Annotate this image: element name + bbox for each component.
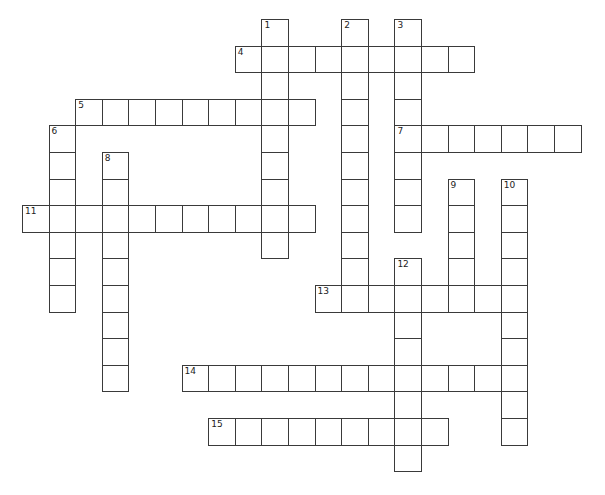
- crossword-cell[interactable]: [75, 205, 103, 233]
- crossword-cell[interactable]: [315, 418, 343, 446]
- crossword-cell[interactable]: [261, 46, 289, 74]
- crossword-cell[interactable]: [501, 258, 529, 286]
- crossword-cell[interactable]: [261, 232, 289, 260]
- crossword-cell[interactable]: [341, 99, 369, 127]
- crossword-cell[interactable]: [261, 72, 289, 100]
- crossword-cell[interactable]: [102, 285, 130, 313]
- crossword-cell[interactable]: [208, 99, 236, 127]
- crossword-cell[interactable]: [155, 205, 183, 233]
- crossword-cell[interactable]: [341, 258, 369, 286]
- crossword-cell[interactable]: [341, 152, 369, 180]
- crossword-cell[interactable]: [288, 99, 316, 127]
- crossword-cell[interactable]: [554, 125, 582, 153]
- crossword-cell[interactable]: [394, 179, 422, 207]
- crossword-cell[interactable]: [448, 365, 476, 393]
- crossword-cell[interactable]: [208, 205, 236, 233]
- crossword-cell[interactable]: [341, 232, 369, 260]
- crossword-cell[interactable]: [49, 179, 77, 207]
- crossword-cell[interactable]: [49, 205, 77, 233]
- crossword-cell[interactable]: [501, 418, 529, 446]
- crossword-cell[interactable]: [501, 285, 529, 313]
- crossword-cell[interactable]: [394, 285, 422, 313]
- crossword-cell[interactable]: 13: [315, 285, 343, 313]
- crossword-cell[interactable]: 9: [448, 179, 476, 207]
- crossword-cell[interactable]: [261, 418, 289, 446]
- crossword-cell[interactable]: [501, 312, 529, 340]
- crossword-cell[interactable]: [261, 205, 289, 233]
- crossword-cell[interactable]: [341, 418, 369, 446]
- crossword-cell[interactable]: [474, 365, 502, 393]
- crossword-cell[interactable]: [421, 46, 449, 74]
- crossword-cell[interactable]: [315, 365, 343, 393]
- crossword-cell[interactable]: [128, 205, 156, 233]
- crossword-cell[interactable]: [394, 365, 422, 393]
- crossword-cell[interactable]: 6: [49, 125, 77, 153]
- crossword-cell[interactable]: [341, 205, 369, 233]
- crossword-cell[interactable]: [394, 46, 422, 74]
- crossword-cell[interactable]: [421, 365, 449, 393]
- crossword-cell[interactable]: [235, 365, 263, 393]
- crossword-cell[interactable]: [49, 152, 77, 180]
- crossword-cell[interactable]: 15: [208, 418, 236, 446]
- crossword-cell[interactable]: [102, 338, 130, 366]
- crossword-cell[interactable]: [49, 285, 77, 313]
- crossword-cell[interactable]: [368, 285, 396, 313]
- crossword-cell[interactable]: [448, 205, 476, 233]
- crossword-cell[interactable]: [394, 205, 422, 233]
- crossword-cell[interactable]: [394, 99, 422, 127]
- crossword-cell[interactable]: [102, 258, 130, 286]
- crossword-cell[interactable]: [501, 391, 529, 419]
- crossword-cell[interactable]: [49, 258, 77, 286]
- crossword-cell[interactable]: 10: [501, 179, 529, 207]
- crossword-cell[interactable]: [394, 152, 422, 180]
- crossword-cell[interactable]: [341, 46, 369, 74]
- crossword-cell[interactable]: 11: [22, 205, 50, 233]
- crossword-cell[interactable]: [102, 179, 130, 207]
- crossword-cell[interactable]: [288, 46, 316, 74]
- crossword-cell[interactable]: [341, 179, 369, 207]
- crossword-cell[interactable]: [102, 312, 130, 340]
- crossword-cell[interactable]: [288, 365, 316, 393]
- crossword-cell[interactable]: [421, 285, 449, 313]
- crossword-cell[interactable]: [421, 125, 449, 153]
- crossword-cell[interactable]: [288, 418, 316, 446]
- crossword-cell[interactable]: [102, 99, 130, 127]
- crossword-cell[interactable]: [261, 179, 289, 207]
- crossword-cell[interactable]: [394, 418, 422, 446]
- crossword-cell[interactable]: [448, 232, 476, 260]
- crossword-cell[interactable]: [448, 46, 476, 74]
- crossword-cell[interactable]: 2: [341, 19, 369, 47]
- crossword-cell[interactable]: 8: [102, 152, 130, 180]
- crossword-cell[interactable]: [421, 418, 449, 446]
- crossword-cell[interactable]: [394, 445, 422, 473]
- crossword-cell[interactable]: [288, 205, 316, 233]
- crossword-cell[interactable]: [394, 312, 422, 340]
- crossword-cell[interactable]: [235, 99, 263, 127]
- crossword-cell[interactable]: 14: [182, 365, 210, 393]
- crossword-cell[interactable]: [527, 125, 555, 153]
- crossword-cell[interactable]: [315, 46, 343, 74]
- crossword-cell[interactable]: 7: [394, 125, 422, 153]
- crossword-cell[interactable]: [394, 72, 422, 100]
- crossword-cell[interactable]: [501, 338, 529, 366]
- crossword-cell[interactable]: [341, 285, 369, 313]
- crossword-cell[interactable]: [448, 258, 476, 286]
- crossword-cell[interactable]: [448, 125, 476, 153]
- crossword-cell[interactable]: [341, 72, 369, 100]
- crossword-cell[interactable]: [182, 99, 210, 127]
- crossword-cell[interactable]: [474, 125, 502, 153]
- crossword-cell[interactable]: [501, 125, 529, 153]
- crossword-cell[interactable]: [341, 125, 369, 153]
- crossword-cell[interactable]: [368, 365, 396, 393]
- crossword-cell[interactable]: [448, 285, 476, 313]
- crossword-cell[interactable]: [128, 99, 156, 127]
- crossword-cell[interactable]: [261, 99, 289, 127]
- crossword-cell[interactable]: [501, 205, 529, 233]
- crossword-cell[interactable]: [235, 418, 263, 446]
- crossword-cell[interactable]: [155, 99, 183, 127]
- crossword-cell[interactable]: 5: [75, 99, 103, 127]
- crossword-cell[interactable]: [235, 205, 263, 233]
- crossword-cell[interactable]: [102, 232, 130, 260]
- crossword-cell[interactable]: [208, 365, 236, 393]
- crossword-cell[interactable]: [501, 365, 529, 393]
